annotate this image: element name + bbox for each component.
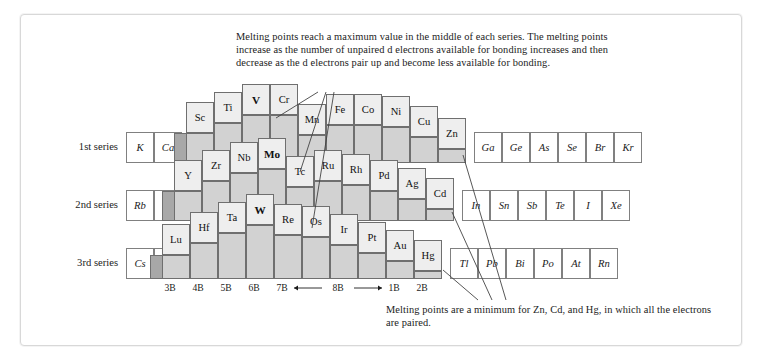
block-front-face	[398, 199, 426, 221]
element-symbol-cell: Os	[302, 206, 330, 237]
series-label: 2nd series	[42, 199, 118, 210]
block-front-face	[410, 137, 438, 163]
block-front-face	[218, 233, 246, 279]
main-group-cell: Tl	[450, 248, 478, 279]
group-label: 6B	[240, 282, 268, 293]
element-symbol-cell: Y	[174, 160, 202, 191]
element-symbol-cell: Mn	[298, 104, 326, 135]
element-symbol-cell: Lu	[162, 224, 190, 255]
main-group-cell: Ga	[474, 132, 502, 163]
group-label: 8B	[324, 282, 352, 293]
element-symbol-cell: Pd	[370, 160, 398, 191]
element-symbol-cell: Cd	[426, 178, 454, 209]
block-front-face	[162, 255, 190, 279]
main-group-cell: In	[462, 190, 490, 221]
main-group-cell: Rb	[126, 190, 154, 221]
element-symbol-cell: Ti	[214, 92, 242, 123]
group-label: 5B	[212, 282, 240, 293]
element-symbol-cell: Zn	[438, 118, 466, 149]
element-symbol-cell: Mo	[258, 138, 286, 169]
element-symbol-cell: Au	[386, 230, 414, 261]
main-group-cell: K	[126, 132, 154, 163]
element-symbol-cell: Ir	[330, 214, 358, 245]
group-label: 4B	[184, 282, 212, 293]
group-label: 3B	[156, 282, 184, 293]
block-front-face	[382, 127, 410, 163]
block-front-face	[438, 149, 466, 163]
main-group-cell: Sn	[490, 190, 518, 221]
element-symbol-cell: V	[242, 84, 270, 115]
annotation-top: Melting points reach a maximum value in …	[236, 30, 636, 70]
main-group-cell: I	[574, 190, 602, 221]
main-group-cell: Bi	[506, 248, 534, 279]
annotation-bottom: Melting points are a minimum for Zn, Cd,…	[386, 303, 716, 329]
element-symbol-cell: W	[246, 194, 274, 225]
main-group-cell: Te	[546, 190, 574, 221]
main-group-cell: Br	[586, 132, 614, 163]
main-group-cell: Sb	[518, 190, 546, 221]
element-symbol-cell: Sc	[186, 102, 214, 133]
element-symbol-cell: Hg	[414, 240, 442, 271]
element-symbol-cell: Cr	[270, 84, 298, 115]
element-symbol-cell: Re	[274, 204, 302, 235]
block-front-face	[386, 261, 414, 279]
element-symbol-cell: Rh	[342, 154, 370, 185]
element-symbol-cell: Pt	[358, 222, 386, 253]
block-front-face	[246, 225, 274, 279]
block-front-face	[358, 253, 386, 279]
main-group-cell: As	[530, 132, 558, 163]
block-front-face	[302, 237, 330, 279]
main-group-cell: Kr	[614, 132, 642, 163]
element-symbol-cell: Fe	[326, 94, 354, 125]
element-symbol-cell: Cu	[410, 106, 438, 137]
series-label: 3rd series	[42, 257, 118, 268]
main-group-cell: At	[562, 248, 590, 279]
block-front-face	[414, 271, 442, 279]
main-group-cell: Po	[534, 248, 562, 279]
element-symbol-cell: Ni	[382, 96, 410, 127]
element-symbol-cell: Nb	[230, 142, 258, 173]
main-group-cell: Ge	[502, 132, 530, 163]
block-front-face	[330, 245, 358, 279]
main-group-cell: Pb	[478, 248, 506, 279]
group-label: 1B	[380, 282, 408, 293]
figure-root: Melting points reach a maximum value in …	[0, 0, 761, 360]
element-symbol-cell: Hf	[190, 212, 218, 243]
element-symbol-cell: Ru	[314, 150, 342, 181]
main-group-cell: Se	[558, 132, 586, 163]
main-group-cell: Xe	[602, 190, 630, 221]
element-symbol-cell: Zr	[202, 150, 230, 181]
block-front-face	[274, 235, 302, 279]
element-symbol-cell: Ta	[218, 202, 246, 233]
group-label: 7B	[268, 282, 296, 293]
block-front-face	[370, 191, 398, 221]
block-front-face	[190, 243, 218, 279]
block-front-face	[426, 209, 454, 221]
element-symbol-cell: Co	[354, 94, 382, 125]
group-label: 2B	[408, 282, 436, 293]
element-symbol-cell: Tc	[286, 156, 314, 187]
series-label: 1st series	[42, 141, 118, 152]
element-symbol-cell: Ag	[398, 168, 426, 199]
main-group-cell: Rn	[590, 248, 618, 279]
